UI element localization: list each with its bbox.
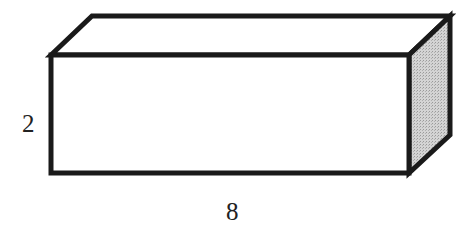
height-label: 2 [22, 111, 35, 136]
prism-figure [0, 0, 470, 225]
length-label: 8 [226, 199, 239, 224]
prism-front-face [51, 55, 409, 173]
prism-top-face [51, 16, 450, 55]
